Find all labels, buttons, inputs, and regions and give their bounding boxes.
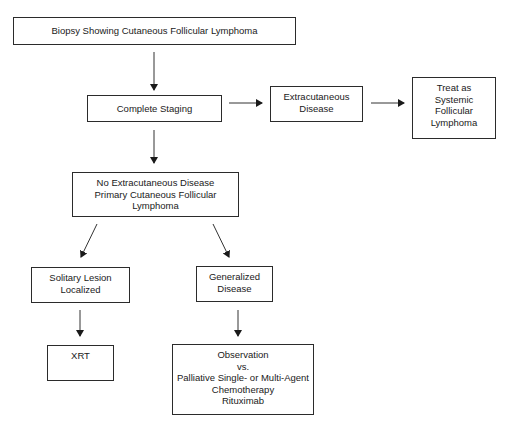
node-text-line: Disease [299, 103, 333, 115]
node-text-line: Chemotherapy [212, 384, 274, 396]
arrow-primary-to-solitary [81, 224, 97, 257]
node-text-line: vs. [237, 361, 249, 373]
node-staging-text: Complete Staging [117, 103, 193, 115]
node-extracutaneous-disease: Extracutaneous Disease [270, 86, 363, 122]
node-generalized-disease: Generalized Disease [196, 266, 273, 302]
node-xrt: XRT [47, 345, 114, 381]
node-solitary-lesion: Solitary Lesion Localized [31, 267, 130, 303]
node-text-line: Extracutaneous [283, 91, 349, 103]
node-primary-cutaneous: No Extracutaneous Disease Primary Cutane… [72, 172, 239, 217]
node-text-line: Generalized [209, 271, 260, 283]
node-treat-systemic: Treat as Systemic Follicular Lymphoma [412, 77, 496, 139]
node-text-line: Observation [217, 349, 268, 361]
arrow-primary-to-generalized [213, 224, 229, 257]
node-text-line: No Extracutaneous Disease [97, 177, 215, 189]
node-text-line: Solitary Lesion [49, 272, 111, 284]
node-text-line: Follicular [435, 105, 473, 117]
node-text-line: Palliative Single- or Multi-Agent [177, 372, 309, 384]
node-observation: Observation vs. Palliative Single- or Mu… [172, 344, 314, 415]
node-text-line: Localized [60, 284, 100, 296]
node-text-line: Systemic [435, 94, 474, 106]
node-text-line: Treat as [437, 82, 472, 94]
node-text-line: Rituximab [222, 395, 264, 407]
node-biopsy-text: Biopsy Showing Cutaneous Follicular Lymp… [51, 25, 257, 37]
node-complete-staging: Complete Staging [87, 95, 222, 122]
node-text-line: Primary Cutaneous Follicular [95, 189, 217, 201]
node-text-line: Lymphoma [431, 117, 478, 129]
node-text-line: Disease [217, 283, 251, 295]
node-text-line: Lymphoma [132, 200, 179, 212]
node-text-line: XRT [71, 350, 90, 362]
node-biopsy: Biopsy Showing Cutaneous Follicular Lymp… [13, 17, 296, 45]
